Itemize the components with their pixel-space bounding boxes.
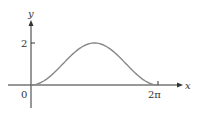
x-axis-arrow-icon bbox=[177, 83, 183, 88]
x-tick-label-2pi: 2π bbox=[148, 89, 161, 100]
y-tick-label-2: 2 bbox=[21, 38, 27, 49]
y-axis-arrow-icon bbox=[29, 20, 34, 26]
origin-label: 0 bbox=[21, 89, 27, 100]
x-axis-label: x bbox=[185, 80, 191, 91]
y-axis-label: y bbox=[27, 8, 34, 19]
curve-line bbox=[31, 43, 158, 85]
chart: y 2 0 2π x bbox=[0, 0, 198, 113]
